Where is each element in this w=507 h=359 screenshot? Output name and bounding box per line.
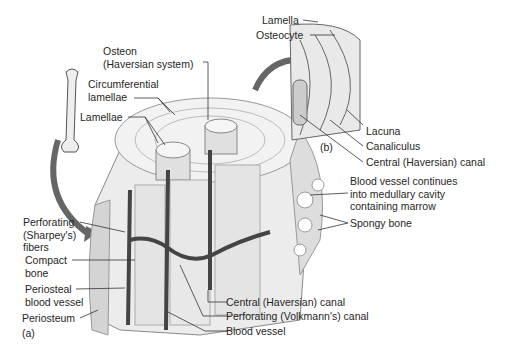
label-line: Osteon	[103, 45, 193, 58]
label-line: Compact	[25, 254, 67, 267]
label-line: Circumferential	[88, 78, 159, 91]
label-central-canal-b: Central (Haversian) canal	[366, 156, 485, 169]
label-line: (Sharpey's)	[23, 229, 76, 242]
label-line: containing marrow	[350, 200, 457, 213]
label-line: Perforating	[23, 216, 76, 229]
label-volkmann-canal: Perforating (Volkmann's) canal	[226, 310, 369, 323]
label-line: Blood vessel continues	[350, 175, 457, 188]
label-blood-vessel: Blood vessel	[226, 325, 286, 338]
label-line: bone	[25, 267, 67, 280]
label-osteon: Osteon (Haversian system)	[103, 45, 193, 70]
label-spongy-bone: Spongy bone	[350, 217, 412, 230]
label-lacuna: Lacuna	[366, 125, 400, 138]
label-line: fibers	[23, 241, 76, 254]
label-periosteal-blood-vessel: Periosteal blood vessel	[25, 283, 83, 308]
label-perforating-fibers: Perforating (Sharpey's) fibers	[23, 216, 76, 254]
label-lamellae: Lamellae	[80, 111, 123, 124]
spongy-bone	[290, 130, 324, 275]
label-osteocyte: Osteocyte	[256, 29, 303, 42]
label-compact-bone: Compact bone	[25, 254, 67, 279]
label-line: into medullary cavity	[350, 188, 457, 201]
label-periosteum: Periosteum	[22, 312, 75, 325]
label-line: Periosteal	[25, 283, 83, 296]
label-circumferential-lamellae: Circumferential lamellae	[88, 78, 159, 103]
panel-label-a: (a)	[22, 327, 35, 340]
label-line: lamellae	[88, 91, 159, 104]
label-central-canal-a: Central (Haversian) canal	[226, 296, 345, 309]
panel-label-b: (b)	[320, 141, 333, 154]
label-canaliculus: Canaliculus	[366, 140, 420, 153]
label-blood-vessel-continues: Blood vessel continues into medullary ca…	[350, 175, 457, 213]
label-lamella: Lamella	[262, 14, 299, 27]
label-line: (Haversian system)	[103, 58, 193, 71]
label-line: blood vessel	[25, 296, 83, 309]
long-bone-icon	[61, 69, 78, 152]
